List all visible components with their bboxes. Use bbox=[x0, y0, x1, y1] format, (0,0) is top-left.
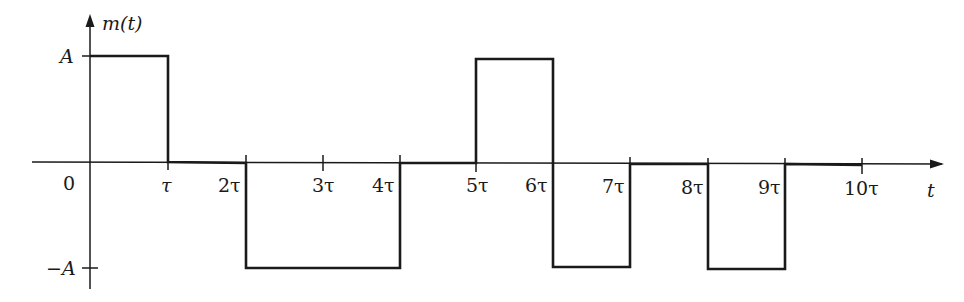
waveform-trace bbox=[90, 56, 862, 269]
x-tick-label-3: 3τ bbox=[312, 176, 335, 195]
y-tick-label-A: A bbox=[60, 47, 74, 66]
y-axis-label: m(t) bbox=[102, 14, 142, 33]
x-ticks bbox=[168, 155, 862, 174]
x-tick-label-2: 2τ bbox=[218, 176, 241, 195]
y-axis-arrow-icon bbox=[86, 14, 95, 27]
x-tick-label-4: 4τ bbox=[372, 176, 395, 195]
x-tick-label-9: 9τ bbox=[758, 178, 781, 197]
x-axis-label: t bbox=[927, 181, 935, 200]
waveform-diagram: m(t) A −A 0 τ 2τ 3τ 4τ 5τ 6τ 7τ 8τ 9τ 10… bbox=[0, 0, 964, 302]
x-axis-arrow-icon bbox=[930, 160, 944, 169]
x-tick-label-7: 7τ bbox=[602, 177, 625, 196]
origin-label: 0 bbox=[63, 174, 75, 193]
x-tick-label-10: 10τ bbox=[844, 179, 879, 198]
waveform-plot bbox=[0, 0, 964, 302]
x-tick-label-5: 5τ bbox=[466, 176, 489, 195]
x-tick-label-1: τ bbox=[161, 176, 172, 195]
y-tick-label-minus-A: −A bbox=[46, 259, 76, 278]
x-tick-label-8: 8τ bbox=[681, 178, 704, 197]
x-tick-label-6: 6τ bbox=[525, 176, 548, 195]
